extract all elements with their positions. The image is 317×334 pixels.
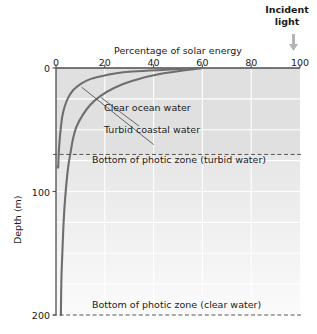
- y-tick-label-200: 200: [24, 310, 50, 321]
- series-label-turbid-coastal-water: Turbid coastal water: [104, 124, 200, 135]
- incident-light-line1: Incident: [258, 4, 316, 16]
- down-arrow-icon: [289, 34, 298, 51]
- series-label-clear-ocean-water: Clear ocean water: [104, 102, 191, 113]
- y-tick-label-100: 100: [24, 187, 50, 198]
- incident-light-line2: light: [258, 16, 316, 28]
- y-tick-label-0: 0: [24, 63, 50, 74]
- incident-light-annotation: Incident light: [258, 4, 316, 28]
- reference-label-photic-zone-clear: Bottom of photic zone (clear water): [92, 299, 261, 310]
- x-axis-title: Percentage of solar energy: [114, 46, 242, 56]
- reference-label-photic-zone-turbid: Bottom of photic zone (turbid water): [92, 154, 266, 165]
- solar-energy-depth-chart: Incident light Percentage of solar energ…: [0, 0, 317, 334]
- y-axis-title: Depth (m): [13, 190, 23, 250]
- zone-aphotic-gradient: [56, 154, 300, 315]
